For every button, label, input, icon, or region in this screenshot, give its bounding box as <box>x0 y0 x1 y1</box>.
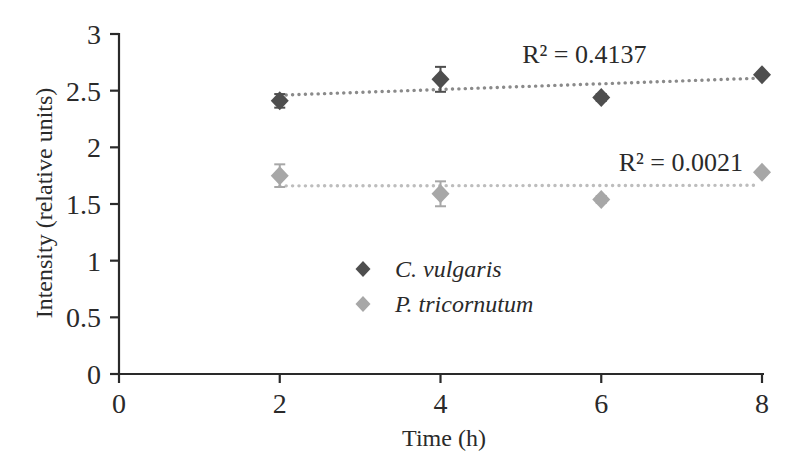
x-axis: 02468 <box>112 374 769 419</box>
legend-item: C. vulgaris <box>356 256 502 282</box>
r-squared-annotation: R² = 0.4137 <box>522 40 646 69</box>
trendline <box>280 78 758 95</box>
y-axis: 00.511.522.53 <box>66 19 119 390</box>
data-point-marker <box>271 166 289 185</box>
data-point-marker <box>432 70 450 89</box>
x-tick-label: 6 <box>594 388 608 419</box>
y-axis-title: Intensity (relative units) <box>31 88 57 319</box>
x-tick-label: 0 <box>112 388 126 419</box>
data-point-marker <box>592 88 610 107</box>
chart-figure: 00.511.522.5302468Intensity (relative un… <box>0 0 797 470</box>
legend: C. vulgarisP. tricornutum <box>356 256 534 317</box>
y-tick-label: 1.5 <box>66 189 101 220</box>
y-tick-label: 1 <box>87 246 101 277</box>
x-tick-label: 8 <box>755 388 769 419</box>
legend-marker-diamond-icon <box>356 261 371 277</box>
data-point-marker <box>753 65 771 84</box>
trendline <box>280 185 758 186</box>
chart-svg: 00.511.522.5302468Intensity (relative un… <box>0 0 797 470</box>
legend-item: P. tricornutum <box>356 291 534 317</box>
x-axis-title: Time (h) <box>402 425 486 451</box>
x-tick-label: 2 <box>273 388 287 419</box>
legend-marker-diamond-icon <box>356 296 371 312</box>
y-tick-label: 0 <box>87 359 101 390</box>
series-1: R² = 0.4137 <box>271 40 771 110</box>
series-2: R² = 0.0021 <box>271 148 771 209</box>
data-point-marker <box>592 190 610 209</box>
y-tick-label: 3 <box>87 19 101 50</box>
r-squared-annotation: R² = 0.0021 <box>619 148 743 177</box>
y-tick-label: 2.5 <box>66 76 101 107</box>
legend-label: C. vulgaris <box>395 256 502 282</box>
legend-label: P. tricornutum <box>394 291 533 317</box>
y-tick-label: 2 <box>87 132 101 163</box>
y-tick-label: 0.5 <box>66 302 101 333</box>
data-point-marker <box>753 163 771 182</box>
x-tick-label: 4 <box>434 388 448 419</box>
